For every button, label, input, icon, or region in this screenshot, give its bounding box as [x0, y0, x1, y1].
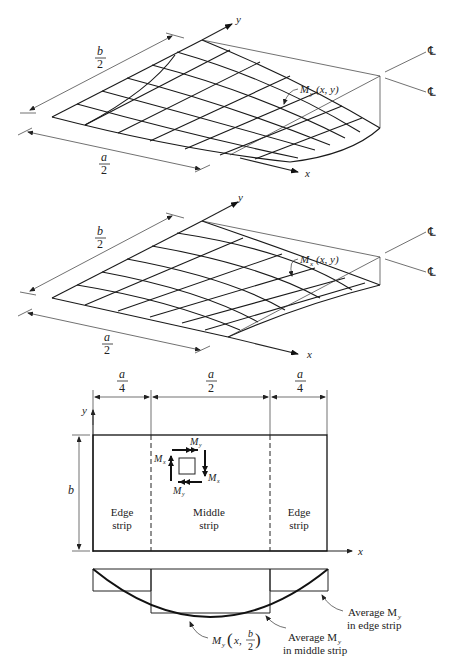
centerline-symbol: ℄	[427, 225, 436, 239]
svg-text:y: y	[181, 491, 185, 497]
dim-a-half	[28, 313, 200, 350]
strip-label-edge-right: Edge	[288, 506, 311, 518]
x-axis-label: x	[357, 545, 363, 557]
surface-label: M y (x, y)	[284, 83, 339, 104]
figure-moment-distribution: M y ( x, b 2 ) Average M y in middle str…	[93, 569, 402, 656]
plate-element-moments: M y M x M x M y	[153, 436, 220, 497]
slab-outline	[93, 435, 327, 551]
svg-text:M: M	[211, 634, 222, 646]
x-axis-label: x	[304, 167, 310, 179]
dim-a-half	[28, 132, 200, 169]
moment-curve	[93, 569, 328, 617]
figure-my-surface: y x ℄ ℄ b 2 a 2 M y (x, y)	[18, 13, 436, 179]
svg-text:Average M: Average M	[348, 606, 397, 618]
svg-text:in middle strip: in middle strip	[283, 644, 348, 656]
svg-text:M: M	[189, 436, 199, 447]
paren-close: )	[255, 630, 261, 649]
svg-text:x: x	[162, 459, 166, 465]
svg-text:2: 2	[208, 381, 214, 395]
svg-text:4: 4	[119, 381, 125, 395]
svg-text:a: a	[297, 367, 303, 381]
y-axis-label: y	[81, 404, 87, 416]
svg-text:M: M	[299, 83, 310, 95]
centerline-symbol: ℄	[427, 265, 436, 279]
svg-text:strip: strip	[289, 519, 309, 531]
svg-text:M: M	[299, 253, 310, 265]
svg-text:x,: x,	[233, 634, 242, 646]
svg-text:strip: strip	[112, 519, 132, 531]
svg-text:a: a	[101, 150, 107, 164]
strip-label-middle: Middle	[193, 506, 225, 518]
x-axis-arrow	[228, 337, 298, 354]
edge-strip-average-right	[270, 569, 328, 591]
middle-strip-average	[151, 569, 270, 613]
centerline-symbol: ℄	[427, 44, 436, 58]
svg-text:b: b	[248, 628, 253, 639]
svg-text:2: 2	[104, 343, 110, 357]
svg-text:2: 2	[97, 237, 103, 251]
svg-text:2: 2	[248, 641, 253, 652]
strip-label-edge-left: Edge	[111, 506, 134, 518]
svg-text:y: y	[198, 442, 202, 448]
y-axis-arrow	[202, 202, 238, 221]
svg-text:x: x	[216, 478, 220, 484]
x-axis-label: x	[306, 348, 312, 360]
paren-open: (	[227, 630, 233, 649]
svg-text:2: 2	[101, 163, 107, 177]
svg-text:x: x	[309, 260, 314, 268]
svg-text:Average M: Average M	[288, 631, 337, 643]
x-axis-arrow	[240, 158, 298, 172]
y-axis-arrow	[202, 24, 232, 40]
centerline-symbol: ℄	[427, 85, 436, 99]
y-axis-label: y	[235, 13, 241, 25]
svg-text:a: a	[119, 367, 125, 381]
svg-text:M: M	[207, 472, 217, 483]
y-axis-label: y	[237, 191, 243, 203]
svg-text:M: M	[172, 485, 182, 496]
svg-text:b: b	[68, 483, 74, 497]
svg-text:M: M	[153, 453, 163, 464]
svg-text:b: b	[97, 44, 103, 58]
svg-text:in edge strip: in edge strip	[347, 619, 402, 631]
figure-mx-surface: y x ℄ ℄ b 2 a 2 M x (x, y)	[18, 191, 436, 360]
svg-text:b: b	[97, 224, 103, 238]
svg-text:(x, y): (x, y)	[316, 83, 339, 96]
svg-text:strip: strip	[199, 519, 219, 531]
svg-text:2: 2	[97, 57, 103, 71]
svg-text:(x, y): (x, y)	[316, 253, 339, 266]
svg-text:a: a	[208, 367, 214, 381]
svg-text:a: a	[104, 330, 110, 344]
svg-text:y: y	[221, 641, 226, 649]
svg-text:4: 4	[297, 381, 303, 395]
edge-strip-average-left	[93, 569, 151, 591]
figure-plan-view: a 4 a 2 a 4 y x b Edge strip Middle stri…	[68, 367, 363, 557]
slab-moment-diagram: y x ℄ ℄ b 2 a 2 M y (x, y)	[0, 0, 454, 661]
